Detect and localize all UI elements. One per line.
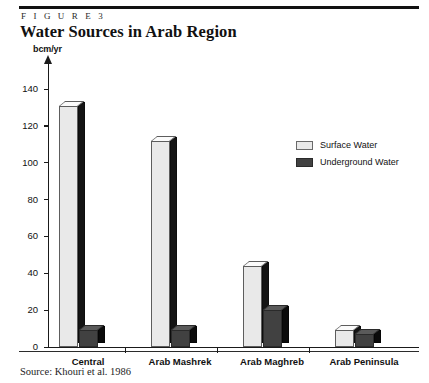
y-axis-tick-label: 120 [4, 120, 38, 131]
y-axis-unit-label: bcm/yr [33, 44, 62, 54]
bar-side-face [78, 102, 85, 343]
bar [355, 334, 374, 347]
y-axis-tick-label: 60 [4, 230, 38, 241]
bar [59, 106, 78, 347]
y-axis-tick [44, 236, 49, 237]
y-axis-tick [44, 273, 49, 274]
bar [263, 310, 282, 347]
y-axis-tick [44, 162, 49, 163]
bar-front-face [335, 330, 354, 347]
bar-front-face [263, 310, 282, 347]
figure-page: F I G U R E 3 Water Sources in Arab Regi… [0, 0, 429, 383]
y-axis-tick-label: 20 [4, 304, 38, 315]
bar-front-face [243, 266, 262, 347]
bar-front-face [79, 330, 98, 347]
y-axis-tick-label: 140 [4, 83, 38, 94]
source-note: Source: Khouri et al. 1986 [20, 366, 131, 377]
y-axis-tick-label: 80 [4, 194, 38, 205]
legend-swatch-underground [296, 158, 313, 167]
bar-chart: bcm/yr 020406080100120140 CentralArab Ma… [0, 0, 429, 383]
bar [243, 266, 262, 347]
y-axis-tick [44, 347, 49, 348]
bar-front-face [151, 141, 170, 347]
bar-front-face [59, 106, 78, 347]
y-axis-tick [44, 310, 49, 311]
y-axis-tick [44, 125, 49, 126]
bar-side-face [170, 137, 177, 343]
bar-side-face [282, 306, 289, 343]
bar [171, 330, 190, 347]
legend-swatch-surface [296, 141, 313, 150]
legend-item-label: Underground Water [320, 157, 399, 167]
y-axis-tick-label: 40 [4, 267, 38, 278]
bar [335, 330, 354, 347]
x-axis-tick [125, 348, 126, 353]
y-axis-tick-label: 0 [4, 341, 38, 352]
legend-item-label: Surface Water [320, 140, 377, 150]
bar-front-face [355, 334, 374, 347]
legend-item: Underground Water [296, 155, 399, 169]
y-axis-tick-label: 100 [4, 157, 38, 168]
bar [79, 330, 98, 347]
y-axis-tick [44, 89, 49, 90]
y-axis-line [48, 62, 49, 347]
x-axis-tick [309, 348, 310, 353]
legend-item: Surface Water [296, 138, 399, 152]
x-axis-category-label: Arab Peninsula [309, 356, 419, 367]
bar-front-face [171, 330, 190, 347]
x-axis-line [44, 347, 419, 348]
chart-legend: Surface WaterUnderground Water [296, 138, 399, 172]
x-axis-tick [217, 348, 218, 353]
y-axis-tick [44, 199, 49, 200]
bar [151, 141, 170, 347]
